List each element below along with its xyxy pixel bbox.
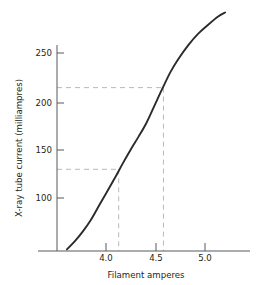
x-tick-label-4-0: 4.0 <box>99 253 113 263</box>
y-axis-title: X-ray tube current (milliampres) <box>14 79 24 217</box>
y-tick-label-200: 200 <box>36 98 52 108</box>
chart-background <box>0 0 266 285</box>
y-tick-label-250: 250 <box>36 48 52 58</box>
y-tick-label-100: 100 <box>36 193 52 203</box>
x-axis-title: Filament amperes <box>107 270 185 280</box>
x-tick-label-5-0: 5.0 <box>198 253 212 263</box>
x-tick-label-4-5: 4.5 <box>149 253 163 263</box>
chart-figure: 250 200 150 100 4.0 4.5 5.0 Filament amp… <box>0 0 266 285</box>
xray-tube-current-line-chart: 250 200 150 100 4.0 4.5 5.0 Filament amp… <box>0 0 266 285</box>
y-tick-label-150: 150 <box>36 145 52 155</box>
